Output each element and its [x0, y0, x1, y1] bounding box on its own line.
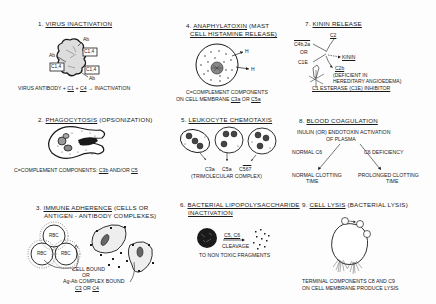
panel-9-caption-line1: TERMINAL COMPONENTS C8 AND C9	[302, 278, 395, 285]
panel-9-caption-line2: ON CELL MEMBRANE PRODUCE LYSIS	[302, 285, 399, 292]
bacterial-lysis-illustration	[0, 0, 436, 304]
